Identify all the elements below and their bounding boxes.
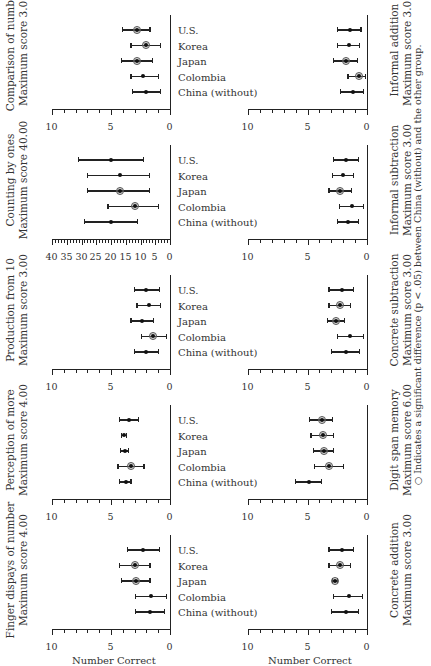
y-tick-label: 10 (238, 121, 258, 132)
error-cap (152, 59, 153, 64)
y-tick (343, 240, 344, 243)
error-cap (160, 43, 161, 48)
y-tick (123, 500, 124, 503)
x-axis (367, 145, 368, 240)
mean-point (135, 59, 139, 63)
error-cap (360, 28, 361, 33)
y-tick (99, 630, 100, 633)
error-cap (331, 350, 332, 355)
y-tick-label: 10 (42, 381, 62, 392)
error-cap (333, 158, 334, 163)
error-cap (149, 28, 150, 33)
y-tick (99, 370, 100, 373)
category-label: Korea (178, 301, 208, 312)
panel-title-text: Informal subtraction (388, 110, 401, 250)
y-tick (355, 370, 356, 373)
y-tick-label: 0 (357, 121, 377, 132)
y-tick-label: 10 (238, 381, 258, 392)
mean-point (144, 90, 148, 94)
y-tick-label: 0 (357, 641, 377, 652)
error-cap (117, 464, 118, 469)
y-tick (135, 370, 136, 373)
y-tick (135, 630, 136, 633)
y-tick (170, 630, 171, 635)
error-cap (310, 433, 311, 438)
error-cap (358, 220, 359, 225)
panel-max-score: Maximum score 3.00 (401, 500, 414, 640)
y-tick-label: 5 (297, 511, 317, 522)
y-tick (96, 240, 97, 245)
y-tick (76, 630, 77, 633)
y-tick (367, 110, 368, 115)
mean-point (344, 610, 348, 614)
y-tick (93, 240, 94, 243)
y-tick (319, 110, 320, 113)
y-tick-label: 0 (357, 511, 377, 522)
category-label: Korea (178, 41, 208, 52)
y-tick (272, 370, 273, 373)
y-tick (272, 110, 273, 113)
y-tick (308, 370, 309, 375)
y-tick (260, 110, 261, 113)
error-cap (158, 350, 159, 355)
panel-max-score: Maximum score 40.00 (17, 110, 30, 250)
y-tick (331, 500, 332, 503)
mean-point (147, 304, 151, 308)
y-tick (331, 370, 332, 373)
y-tick (146, 630, 147, 633)
error-cap (358, 158, 359, 163)
mean-point (348, 28, 352, 32)
mean-point (144, 288, 148, 292)
category-label: China (without) (178, 607, 257, 618)
y-tick (76, 240, 77, 243)
y-tick-label: 0 (160, 381, 180, 392)
error-cap (365, 74, 366, 79)
y-tick (296, 500, 297, 503)
y-tick (260, 370, 261, 373)
x-axis (170, 275, 171, 370)
panel-title: Concrete subtractionMaximum score 3.00 (388, 240, 414, 380)
mean-point (350, 205, 354, 209)
y-tick (67, 240, 68, 245)
error-cap (149, 579, 150, 584)
category-label: U.S. (178, 155, 198, 166)
y-tick (331, 110, 332, 113)
y-tick (146, 110, 147, 113)
mean-point (148, 610, 152, 614)
category-label: Japan (178, 316, 207, 327)
y-tick (248, 240, 249, 245)
y-tick (248, 630, 249, 635)
error-cap (121, 59, 122, 64)
y-tick-label: 5 (297, 121, 317, 132)
mean-point (307, 480, 311, 484)
panel-title: Perception of moreMaximum score 4.00 (4, 370, 30, 510)
panel-title-text: Comparison of number (4, 0, 17, 120)
y-tick (355, 500, 356, 503)
mean-point (134, 579, 138, 583)
panel-title: Digit span memoryMaximum score 6.00 (388, 370, 414, 510)
error-cap (363, 334, 364, 339)
mean-point (340, 548, 344, 552)
mean-point (344, 158, 348, 162)
mean-point (351, 90, 355, 94)
category-label: Japan (178, 186, 207, 197)
y-tick (331, 630, 332, 633)
y-tick (158, 370, 159, 373)
error-cap (122, 28, 123, 33)
panel-max-score: Maximum score 3.00 (17, 0, 30, 120)
y-tick (343, 370, 344, 373)
y-tick-label: 0 (357, 251, 377, 262)
y-tick (146, 240, 147, 243)
y-tick (64, 240, 65, 243)
mean-point (347, 595, 351, 599)
y-tick (64, 110, 65, 113)
y-tick (308, 630, 309, 635)
panel-title-text: Counting by ones (4, 110, 17, 250)
error-cap (158, 204, 159, 209)
category-label: Korea (178, 171, 208, 182)
y-tick-label: 10 (42, 511, 62, 522)
y-tick (296, 240, 297, 243)
y-tick (158, 500, 159, 503)
y-tick (149, 240, 150, 243)
error-cap (340, 90, 341, 95)
